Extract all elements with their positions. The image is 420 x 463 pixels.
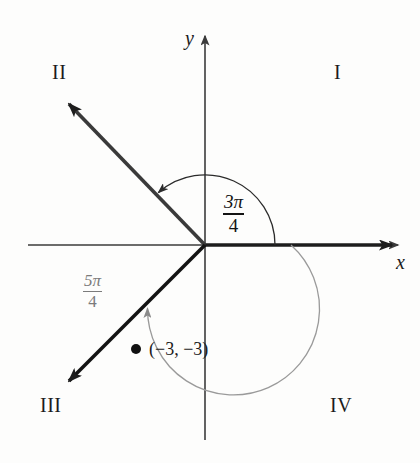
angle-label-5pi-over-4-denominator: 4 bbox=[82, 292, 103, 311]
angle-label-3pi-over-4: 3π 4 bbox=[222, 192, 245, 235]
quadrant-label-III: III bbox=[40, 395, 61, 415]
angle-label-3pi-over-4-numerator: 3π bbox=[222, 192, 245, 213]
angle-label-3pi-over-4-denominator: 4 bbox=[222, 215, 245, 236]
angle-label-5pi-over-4: 5π 4 bbox=[82, 272, 103, 311]
terminal-ray-quadrant-II bbox=[69, 104, 205, 245]
quadrant-label-IV: IV bbox=[330, 395, 352, 415]
angle-diagram-figure: y x I II III IV 3π 4 5π 4 (−3, −3) bbox=[0, 0, 420, 463]
arc-3pi-over-4 bbox=[159, 175, 276, 245]
y-axis-label: y bbox=[185, 28, 194, 48]
terminal-ray-quadrant-III bbox=[69, 245, 205, 381]
point-coordinate-label: (−3, −3) bbox=[149, 340, 208, 358]
x-axis-label: x bbox=[396, 252, 405, 272]
quadrant-label-I: I bbox=[334, 62, 341, 82]
angle-label-5pi-over-4-numerator: 5π bbox=[82, 272, 103, 291]
quadrant-label-II: II bbox=[52, 62, 66, 82]
arc-5pi-over-4 bbox=[147, 245, 319, 395]
plotted-point-dot bbox=[131, 344, 141, 354]
